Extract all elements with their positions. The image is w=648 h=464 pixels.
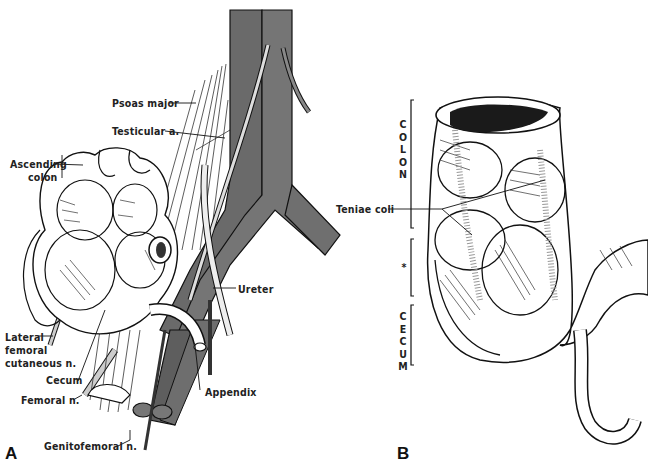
label-ureter: Ureter [238, 283, 274, 295]
label-ascending-colon-line1: Ascending [10, 158, 67, 170]
label-cecum-vertical: C E C U M [398, 310, 408, 373]
label-genitofemoral-nerve: Genitofemoral n. [44, 440, 137, 452]
label-femoral-nerve: Femoral n. [21, 394, 80, 406]
label-psoas-major: Psoas major [112, 97, 179, 109]
label-asterisk: * [399, 261, 409, 274]
label-lateral-femoral-line3: cutaneous n. [5, 357, 76, 369]
label-appendix: Appendix [205, 386, 257, 398]
label-colon-vertical: C O L O N [398, 118, 408, 181]
anatomy-figure: Psoas major Testicular a. Ascending colo… [0, 0, 648, 464]
label-teniae-coli: Teniae coli [336, 203, 394, 215]
label-testicular-artery: Testicular a. [112, 125, 179, 137]
label-ascending-colon-line2: colon [28, 171, 58, 183]
label-cecum: Cecum [46, 374, 83, 386]
panel-letter-b: B [397, 444, 409, 464]
panel-a-leaders [0, 0, 648, 464]
label-lateral-femoral-line2: femoral [5, 344, 48, 356]
panel-letter-a: A [5, 444, 17, 464]
label-lateral-femoral-line1: Lateral [5, 331, 44, 343]
